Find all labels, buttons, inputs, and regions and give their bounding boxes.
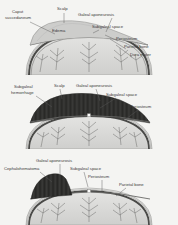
label-cephalohematoma: Cephalohematoma bbox=[4, 166, 40, 171]
subgaleal-space-marker bbox=[87, 190, 90, 193]
panel-cephalohematoma: Galeal aponeurosis Cephalohematoma Subga… bbox=[0, 149, 178, 225]
label-subgaleal-space: Subgaleal space bbox=[106, 92, 138, 97]
label-scalp: Scalp bbox=[57, 6, 68, 11]
label-caput-2: succedaneum bbox=[5, 15, 32, 20]
label-parietal-bone: Parietal bone bbox=[119, 182, 144, 187]
cephalohematoma-mass bbox=[31, 174, 72, 199]
label-subgaleal-space: Subgaleal space bbox=[70, 166, 102, 171]
panel-caput-succedaneum: Caput succedaneum Scalp Galeal aponeuros… bbox=[0, 0, 178, 75]
label-periosteum: Periosteum bbox=[130, 104, 152, 109]
label-scalp: Scalp bbox=[54, 83, 65, 88]
label-dura-mater: Dura mater bbox=[130, 52, 152, 57]
label-caput-1: Caput bbox=[12, 9, 24, 14]
label-galeal-aponeurosis: Galeal aponeurosis bbox=[78, 12, 114, 17]
label-subgaleal-space: Subgaleal space bbox=[92, 24, 124, 29]
label-subgaleal-2: hemorrhage bbox=[11, 90, 34, 95]
label-periosteum: Periosteum bbox=[116, 36, 138, 41]
label-galeal-aponeurosis: Galeal aponeurosis bbox=[36, 158, 72, 163]
label-periosteum: Periosteum bbox=[88, 174, 110, 179]
label-subgaleal-1: Subgaleal bbox=[14, 84, 33, 89]
label-parietal-bone: Parietal bone bbox=[124, 44, 149, 49]
label-edema: Edema bbox=[52, 28, 66, 33]
panel-subgaleal-hemorrhage: Subgaleal hemorrhage Scalp Galeal aponeu… bbox=[0, 75, 178, 149]
label-galeal-aponeurosis: Galeal aponeurosis bbox=[76, 83, 112, 88]
subgaleal-space-marker bbox=[87, 114, 90, 117]
